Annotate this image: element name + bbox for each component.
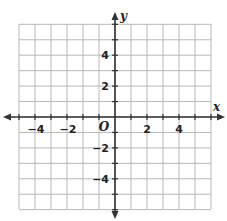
x-axis-right-arrow-icon (217, 114, 225, 121)
y-axis-down-arrow-icon (112, 211, 119, 219)
x-axis: x (3, 100, 225, 121)
y-axis-up-arrow-icon (112, 12, 119, 20)
y-axis-label: y (119, 9, 128, 23)
x-axis-label: x (212, 100, 221, 114)
y-tick-label-2: 2 (101, 80, 109, 93)
x-tick-label-2: 2 (143, 123, 151, 136)
coordinate-plane: x y −4 −2 2 4 4 2 −2 −4 O (0, 0, 227, 221)
origin-label: O (99, 120, 110, 134)
y-tick-label-neg4: −4 (92, 173, 109, 186)
x-axis-left-arrow-icon (3, 114, 11, 121)
x-tick-label-neg2: −2 (60, 123, 77, 136)
y-tick-label-neg2: −2 (92, 142, 109, 155)
y-axis: y (112, 9, 129, 219)
y-tick-label-4: 4 (101, 49, 109, 62)
x-tick-label-neg4: −4 (28, 123, 45, 136)
x-tick-label-4: 4 (175, 123, 183, 136)
